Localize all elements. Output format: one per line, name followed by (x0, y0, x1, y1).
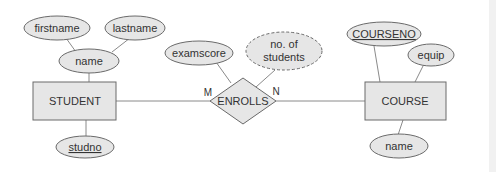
line-courseno-course (374, 46, 380, 82)
label-studno: studno (68, 141, 101, 153)
label-lastname: lastname (113, 22, 158, 34)
line-noofstudents-enrolls (256, 70, 275, 87)
label-student: STUDENT (49, 95, 101, 107)
line-equip-course (415, 64, 424, 82)
label-equip: equip (418, 49, 445, 61)
label-cardinality-m: M (204, 87, 212, 98)
line-course-name (398, 120, 403, 135)
label-enrolls: ENROLLS (217, 95, 268, 107)
label-examscore: examscore (172, 47, 226, 59)
right-edge-strip (489, 0, 496, 172)
label-course-name: name (385, 140, 413, 152)
label-course: COURSE (381, 95, 428, 107)
label-student-name: name (75, 55, 103, 67)
label-cardinality-n: N (272, 86, 279, 97)
line-firstname-name (66, 38, 76, 52)
er-diagram: firstname lastname name studno examscore… (0, 0, 496, 172)
label-courseno: COURSENO (352, 28, 416, 40)
line-examscore-enrolls (216, 62, 231, 83)
label-firstname: firstname (34, 22, 79, 34)
label-no-of-students-2: students (263, 51, 305, 63)
label-no-of-students-1: no. of (270, 38, 298, 50)
